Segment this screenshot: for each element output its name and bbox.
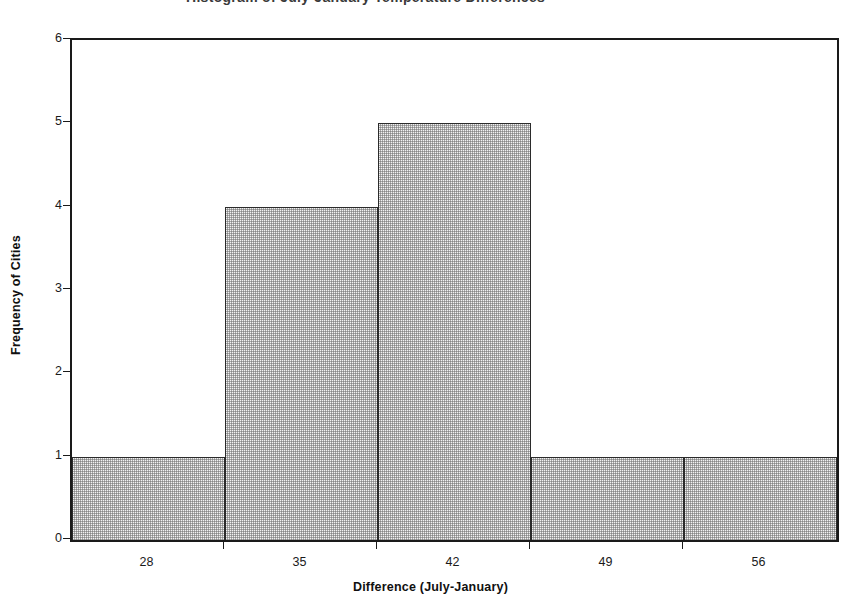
- y-axis-tick-label: 2: [36, 365, 62, 378]
- y-axis-tick-label: 3: [36, 282, 62, 295]
- histogram-bar: [378, 123, 531, 540]
- y-axis-tick-mark: [63, 538, 70, 539]
- y-axis-tick-mark: [63, 38, 70, 39]
- x-axis-tick-label: 35: [260, 556, 340, 570]
- y-axis-tick-mark: [63, 371, 70, 372]
- histogram-bar: [531, 457, 684, 540]
- y-axis-tick-label: 0: [36, 532, 62, 545]
- x-axis-tick-label: 49: [566, 556, 646, 570]
- y-axis-title: Frequency of Cities: [9, 235, 23, 355]
- x-axis-tick-label: 42: [413, 556, 493, 570]
- y-axis-tick-label: 4: [36, 198, 62, 211]
- histogram-bar: [225, 207, 378, 540]
- y-axis-tick-label: 5: [36, 115, 62, 128]
- x-axis-tick-label: 56: [719, 556, 799, 570]
- histogram-bar: [72, 457, 225, 540]
- y-axis-tick-mark: [63, 288, 70, 289]
- x-axis-title: Difference (July-January): [0, 580, 861, 594]
- y-axis-tick-label: 6: [36, 32, 62, 45]
- y-axis-tick-label: 1: [36, 448, 62, 461]
- y-axis-tick-mark: [63, 121, 70, 122]
- y-axis-tick-mark: [63, 455, 70, 456]
- plot-area: [70, 38, 839, 542]
- x-axis-tick-label: 28: [107, 556, 187, 570]
- y-axis-tick-mark: [63, 205, 70, 206]
- histogram-bar: [684, 457, 837, 540]
- histogram-chart: Frequency of Cities 0123456 2835424956 D…: [0, 0, 861, 611]
